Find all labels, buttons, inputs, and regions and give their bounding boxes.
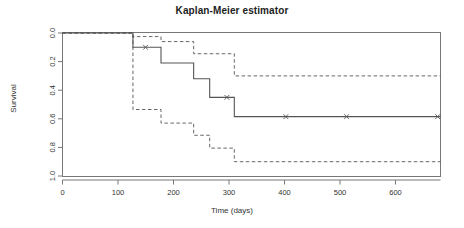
x-axis-tick-labels: 0 100 200 300 400 500 600	[60, 188, 401, 197]
plot-canvas: 1.0 0.8 0.6 0.4 0.2 0.0 0 100 200 300 40…	[0, 0, 464, 228]
series-path-1	[63, 33, 441, 76]
censor-marks-layer	[143, 45, 440, 119]
x-tick-label-600: 600	[389, 188, 402, 197]
series-path-0	[63, 33, 441, 117]
kaplan-meier-plot: Kaplan-Meier estimator 1.0 0.8 0.6 0.4 0…	[0, 0, 464, 228]
x-tick-label-500: 500	[334, 188, 347, 197]
x-tick-label-0: 0	[60, 188, 64, 197]
y-tick-label-1: 0.8	[48, 142, 57, 152]
x-tick-label-400: 400	[278, 188, 291, 197]
y-tick-label-2: 0.6	[48, 114, 57, 124]
y-tick-label-4: 0.2	[48, 56, 57, 66]
x-tick-label-300: 300	[223, 188, 236, 197]
x-axis-title: Time (days)	[0, 206, 464, 215]
x-tick-label-100: 100	[112, 188, 125, 197]
series-path-2	[63, 33, 441, 162]
y-axis-tick-labels: 1.0 0.8 0.6 0.4 0.2 0.0	[48, 28, 57, 181]
x-axis-ticks	[63, 180, 441, 185]
series-layer	[63, 33, 441, 162]
y-axis-title: Survival	[9, 64, 18, 134]
y-axis-ticks	[58, 33, 63, 176]
y-tick-label-0: 1.0	[48, 171, 57, 181]
y-tick-label-5: 0.0	[48, 28, 57, 38]
y-tick-label-3: 0.4	[48, 85, 57, 95]
x-tick-label-200: 200	[167, 188, 180, 197]
plot-frame	[63, 33, 441, 177]
